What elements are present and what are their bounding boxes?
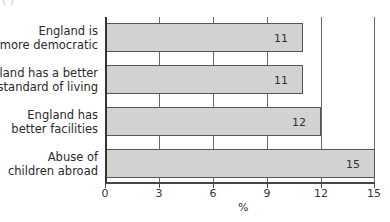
x-tick-label: 15 [359, 187, 389, 200]
category-label: England is more democratic [0, 24, 98, 52]
bar-value-label: 15 [346, 157, 360, 170]
x-tick-label: 9 [252, 187, 282, 200]
plot-area: 11 11 12 15 [105, 17, 375, 184]
category-label-line: Abuse of [8, 150, 98, 164]
category-label-line: more democratic [0, 38, 98, 52]
category-label: England has better facilities [11, 108, 98, 136]
x-axis-title: % [238, 201, 248, 214]
category-label-line: standard of living [0, 80, 98, 94]
bar-value-label: 12 [292, 115, 306, 128]
bar-england-more-democratic: 11 [105, 23, 303, 52]
bar-england-better-standard-of-living: 11 [105, 65, 303, 94]
bar-value-label: 11 [274, 73, 288, 86]
category-label-line: England has [11, 108, 98, 122]
bar-england-better-facilities: 12 [105, 107, 321, 136]
category-label-line: better facilities [11, 122, 98, 136]
category-label: England has a better standard of living [0, 66, 98, 94]
x-tick-label: 0 [90, 187, 120, 200]
x-tick-label: 6 [198, 187, 228, 200]
bar-abuse-of-children-abroad: 15 [105, 149, 375, 178]
category-label-line: England has a better [0, 66, 98, 80]
category-label: Abuse of children abroad [8, 150, 98, 178]
x-tick-label: 3 [144, 187, 174, 200]
y-axis-line [105, 17, 107, 184]
category-label-line: children abroad [8, 164, 98, 178]
bar-value-label: 11 [274, 31, 288, 44]
clipped-caption-fragment: ( ) [2, 0, 14, 7]
x-axis-line [105, 182, 375, 184]
x-tick-label: 12 [306, 187, 336, 200]
category-label-line: England is [0, 24, 98, 38]
